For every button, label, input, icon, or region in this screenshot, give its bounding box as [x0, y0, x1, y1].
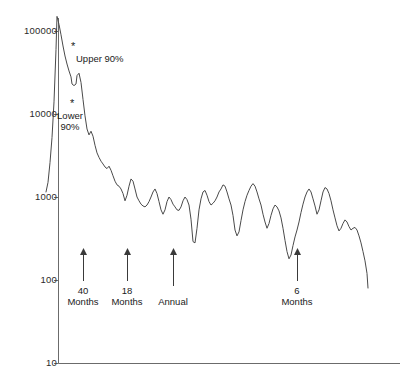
y-tick-label-100000: 100000 — [24, 25, 57, 36]
period-annual-arrow — [170, 248, 177, 286]
period-18-months-label-line1: 18 — [102, 285, 152, 296]
lower-90-label-line2: 90% — [42, 121, 98, 132]
period-40-months-label-line1: 40 — [58, 285, 108, 296]
period-6-months-label-line2: Months — [272, 296, 322, 307]
chart-container: 100000 10000 1000 100 10 * Upper 90% * L… — [0, 0, 409, 376]
lower-90-asterisk-marker: * — [70, 98, 74, 109]
period-18-months-label-line2: Months — [102, 296, 152, 307]
period-6-months-arrow — [294, 248, 301, 281]
annotation-arrows — [80, 248, 301, 286]
period-annual-label: Annual — [148, 296, 198, 307]
upper-90-asterisk-marker: * — [71, 41, 75, 52]
period-6-months-label-line1: 6 — [272, 285, 322, 296]
y-tick-label-10: 10 — [46, 357, 57, 368]
y-tick-label-100: 100 — [41, 274, 57, 285]
chart-plot-area — [0, 0, 409, 376]
period-40-months-arrow — [80, 248, 87, 281]
period-18-months-arrow — [124, 248, 131, 281]
upper-90-label: Upper 90% — [76, 53, 124, 64]
y-tick-label-1000: 1000 — [35, 191, 57, 202]
period-40-months-label-line2: Months — [58, 296, 108, 307]
lower-90-label-line1: Lower — [42, 110, 98, 121]
